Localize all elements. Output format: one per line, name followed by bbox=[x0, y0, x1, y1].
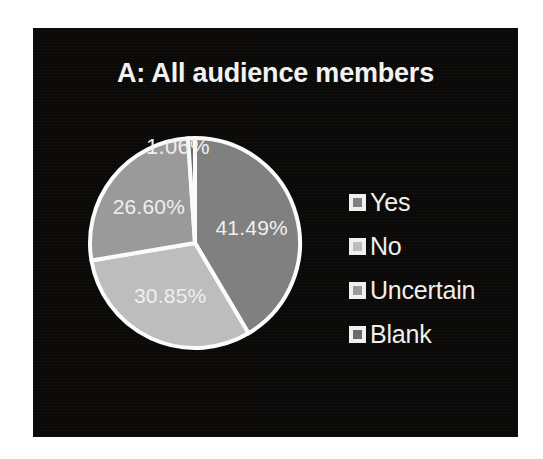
pie-slice-label-blank: 1.06% bbox=[146, 134, 210, 160]
pie-chart-svg: 41.49%30.85%26.60% bbox=[80, 128, 310, 358]
legend-item-no[interactable]: No bbox=[349, 227, 475, 265]
chart-legend: Yes No Uncertain Blank bbox=[349, 183, 475, 359]
legend-label-no: No bbox=[370, 234, 402, 259]
legend-swatch-yes-icon bbox=[349, 194, 366, 211]
legend-swatch-yes-fill bbox=[353, 198, 362, 207]
legend-item-blank[interactable]: Blank bbox=[349, 315, 475, 353]
legend-swatch-blank-icon bbox=[349, 326, 366, 343]
legend-label-yes: Yes bbox=[370, 190, 410, 215]
legend-item-uncertain[interactable]: Uncertain bbox=[349, 271, 475, 309]
pie-chart: 41.49%30.85%26.60% bbox=[80, 128, 310, 358]
legend-swatch-no-fill bbox=[353, 242, 362, 251]
legend-swatch-uncertain-fill bbox=[353, 286, 362, 295]
pie-slice-label-uncertain: 26.60% bbox=[113, 195, 185, 218]
legend-swatch-no-icon bbox=[349, 238, 366, 255]
chart-panel: A: All audience members 1.06% 41.49%30.8… bbox=[33, 28, 518, 437]
legend-label-uncertain: Uncertain bbox=[370, 278, 475, 303]
pie-slices bbox=[90, 138, 300, 348]
page-title: A: All audience members bbox=[33, 58, 518, 89]
pie-slice-label-no: 30.85% bbox=[134, 284, 206, 307]
legend-swatch-uncertain-icon bbox=[349, 282, 366, 299]
legend-item-yes[interactable]: Yes bbox=[349, 183, 475, 221]
pie-slice-label-yes: 41.49% bbox=[215, 216, 287, 239]
legend-label-blank: Blank bbox=[370, 322, 432, 347]
legend-swatch-blank-fill bbox=[353, 330, 362, 339]
